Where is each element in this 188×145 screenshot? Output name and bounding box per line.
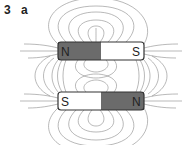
magnet-bottom-left-pole: S xyxy=(61,95,69,109)
magnet-top-left-pole: N xyxy=(61,45,70,59)
field-lines xyxy=(20,0,182,145)
magnet-top-right-pole: S xyxy=(132,45,140,59)
magnet-bottom-right-pole: N xyxy=(132,95,141,109)
magnetic-field-diagram: N S S N xyxy=(0,0,188,145)
